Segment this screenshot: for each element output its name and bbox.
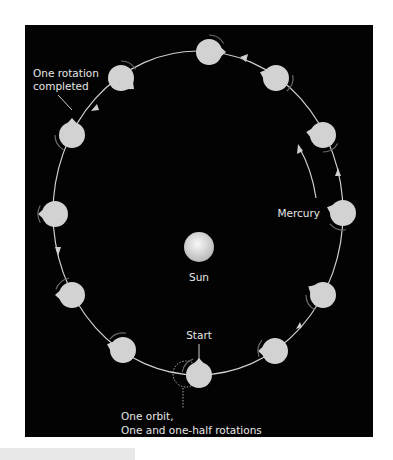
planet-mercury-11	[55, 118, 85, 150]
orbit-arrow-right	[335, 168, 341, 176]
start-label: Start	[186, 329, 212, 341]
mercury-label: Mercury	[277, 207, 320, 219]
orbit-arrow-upper-left	[91, 104, 99, 111]
surface-marker	[220, 46, 226, 58]
orbit-arrow-lower-right	[296, 322, 302, 329]
planet-mercury-4	[327, 200, 356, 230]
planet-mercury-3	[306, 122, 337, 152]
orbit-label-line1: One orbit,	[121, 410, 174, 422]
planet-body	[262, 338, 288, 364]
rotation-callout-line	[58, 95, 72, 110]
planet-body	[186, 362, 212, 388]
mercury-arrow-line	[299, 147, 316, 198]
planet-mercury-7	[182, 358, 212, 388]
rotation-label-line2: completed	[33, 80, 89, 92]
planet-mercury-1	[196, 35, 226, 65]
planet-body	[196, 39, 222, 65]
planet-body	[59, 282, 85, 308]
planet-body	[263, 65, 289, 91]
mercury-orbit-diagram: Sun Start Mercury One rotation completed…	[0, 0, 393, 460]
planet-body	[330, 200, 356, 226]
sun	[184, 232, 214, 262]
planet-mercury-8	[107, 333, 136, 363]
planet-mercury-5	[306, 282, 336, 310]
planet-mercury-12	[108, 61, 136, 91]
planet-body	[110, 337, 136, 363]
orbit-label-line2: One and one-half rotations	[121, 424, 262, 436]
planet-mercury-10	[38, 201, 68, 227]
orbit-arrow-left	[55, 247, 61, 256]
sun-label: Sun	[189, 271, 209, 283]
surface-marker	[193, 358, 205, 364]
surface-marker	[55, 289, 61, 301]
planet-body	[59, 122, 85, 148]
planet-mercury-9	[55, 278, 85, 308]
surface-marker	[66, 118, 78, 124]
rotation-label-line1: One rotation	[33, 67, 99, 79]
planet-body	[310, 122, 336, 148]
planet-mercury-6	[258, 338, 288, 364]
planet-body	[42, 201, 68, 227]
